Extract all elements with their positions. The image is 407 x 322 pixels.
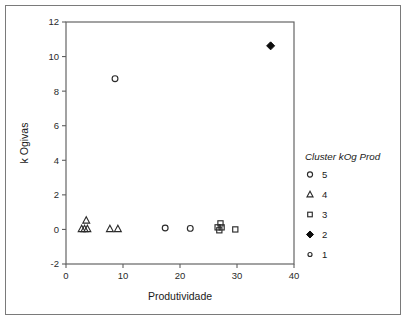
legend-item-5[interactable]: 5 [307, 169, 327, 180]
x-tick-label: 40 [289, 270, 300, 281]
legend-entries: 54321 [306, 169, 327, 260]
x-tick-label: 20 [175, 270, 186, 281]
y-tick-label: 12 [48, 16, 59, 27]
legend-item-label: 3 [322, 209, 327, 220]
series-3 [215, 221, 238, 233]
data-point-marker [83, 217, 90, 223]
legend-item-label: 5 [322, 169, 327, 180]
legend: Cluster kOg Prod 54321 [305, 151, 381, 260]
x-tick-label: 10 [118, 270, 129, 281]
legend-item-label: 2 [322, 229, 327, 240]
x-axis-title: Produtividade [148, 290, 212, 302]
y-tick-label: -2 [51, 258, 59, 269]
data-point-marker [306, 231, 313, 238]
legend-item-label: 4 [322, 189, 327, 200]
chart-figure: -2024681012 010203040 Produtividade k Og… [0, 0, 407, 322]
x-tick-label: 0 [63, 270, 68, 281]
legend-title: Cluster kOg Prod [305, 151, 381, 162]
legend-item-3[interactable]: 3 [308, 209, 328, 220]
series-4 [78, 217, 121, 232]
data-point-marker [112, 76, 118, 82]
data-points [78, 42, 274, 233]
x-tick-label: 30 [232, 270, 243, 281]
y-tick-label: 10 [48, 51, 59, 62]
data-point-marker [233, 227, 238, 232]
legend-item-label: 1 [322, 249, 327, 260]
y-tick-label: 4 [54, 155, 59, 166]
data-point-marker [308, 212, 313, 217]
data-point-marker [187, 225, 193, 231]
data-point-marker [114, 225, 121, 231]
series-5 [112, 76, 193, 231]
y-tick-label: 8 [54, 86, 59, 97]
data-point-marker [106, 225, 113, 231]
x-axis: 010203040 [63, 264, 299, 281]
series-2 [267, 42, 275, 50]
plot-frame [66, 22, 294, 264]
y-tick-label: 0 [54, 224, 59, 235]
data-point-marker [162, 225, 168, 231]
y-tick-label: 2 [54, 189, 59, 200]
y-axis: -2024681012 [48, 16, 66, 269]
data-point-marker [267, 42, 275, 50]
data-point-marker [307, 172, 312, 177]
scatter-plot: -2024681012 010203040 Produtividade k Og… [0, 0, 407, 322]
data-point-marker [307, 191, 313, 197]
y-axis-title: k Ogivas [18, 123, 30, 164]
y-tick-label: 6 [54, 120, 59, 131]
legend-item-4[interactable]: 4 [307, 189, 327, 200]
data-point-marker [308, 252, 312, 256]
legend-item-1[interactable]: 1 [308, 249, 327, 260]
legend-item-2[interactable]: 2 [306, 229, 327, 240]
